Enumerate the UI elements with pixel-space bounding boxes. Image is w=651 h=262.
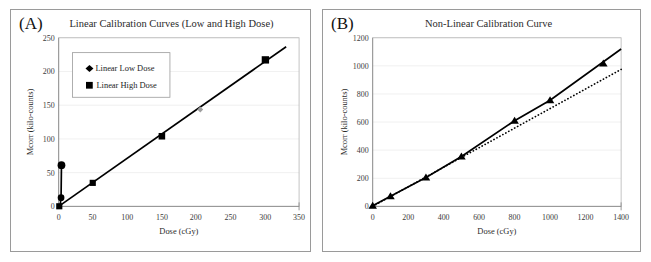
y-tick-label: 600	[357, 118, 369, 127]
y-tick-label: 100	[43, 135, 55, 144]
data-marker-square	[262, 56, 269, 63]
data-marker-diamond	[58, 161, 66, 169]
y-tick-label: 150	[43, 101, 55, 110]
panel-b-plot: 0 200 400 600 800 1000 1200 0 200 400 60…	[323, 10, 640, 251]
x-tick-label: 250	[225, 213, 237, 222]
panel-b-x-axis-title: Dose (cGy)	[477, 226, 516, 236]
faint-data-marker	[197, 106, 203, 112]
x-tick-label: 0	[371, 213, 375, 222]
x-tick-label: 400	[438, 213, 450, 222]
x-tick-label: 300	[259, 213, 271, 222]
x-tick-label: 350	[293, 213, 305, 222]
legend-box	[73, 53, 170, 98]
y-tick-label: 0	[365, 202, 369, 211]
data-marker-triangle	[510, 117, 519, 124]
panel-b-y-axis-title: Mcorr (kilo-counts)	[339, 89, 349, 156]
y-tick-label: 1000	[353, 62, 369, 71]
x-tick-label: 1000	[542, 213, 558, 222]
y-tick-label: 0	[51, 202, 55, 211]
panel-a-legend: Linear Low Dose Linear High Dose	[73, 53, 170, 98]
panel-b-x-ticks: 0 200 400 600 800 1000 1200 1400	[371, 213, 629, 222]
data-marker-square	[159, 133, 166, 140]
x-tick-label: 200	[402, 213, 414, 222]
x-tick-label: 50	[88, 213, 96, 222]
y-tick-label: 800	[357, 90, 369, 99]
legend-label-low-dose: Linear Low Dose	[95, 63, 154, 73]
panel-a-plot: 0 50 100 150 200 250 0 50 100 150 200 25…	[11, 10, 310, 251]
data-marker-square	[90, 180, 96, 186]
panel-a-x-ticks: 0 50 100 150 200 250 300 350	[57, 213, 305, 222]
y-tick-label: 50	[47, 169, 55, 178]
x-tick-label: 800	[509, 213, 521, 222]
panel-b-data-markers	[368, 60, 607, 209]
legend-label-high-dose: Linear High Dose	[96, 80, 157, 90]
y-tick-label: 1200	[353, 34, 369, 43]
y-tick-label: 250	[43, 34, 55, 43]
x-tick-label: 600	[473, 213, 485, 222]
x-tick-label: 1400	[613, 213, 629, 222]
legend-square-icon	[86, 82, 93, 89]
x-tick-label: 0	[57, 213, 61, 222]
y-tick-label: 200	[43, 67, 55, 76]
x-tick-label: 100	[121, 213, 133, 222]
panel-a-y-axis-title: Mcorr (kilo-counts)	[25, 89, 35, 156]
panel-b-y-ticks: 0 200 400 600 800 1000 1200	[353, 34, 369, 212]
x-tick-label: 200	[190, 213, 202, 222]
panel-a-y-ticks: 0 50 100 150 200 250	[43, 34, 55, 212]
data-marker-square	[56, 203, 62, 209]
panel-b-gridlines	[373, 38, 621, 207]
y-tick-label: 400	[357, 146, 369, 155]
panel-a-x-axis-title: Dose (cGy)	[159, 226, 198, 236]
y-tick-label: 200	[357, 174, 369, 183]
x-tick-label: 150	[156, 213, 168, 222]
data-marker-diamond	[58, 194, 65, 201]
figure-container: (A) Linear Calibration Curves (Low and H…	[0, 0, 651, 262]
panel-b: (B) Non-Linear Calibration Curve 0 200 4…	[322, 9, 641, 252]
panel-b-calibration-line	[373, 49, 621, 206]
x-tick-label: 1200	[578, 213, 594, 222]
panel-a: (A) Linear Calibration Curves (Low and H…	[10, 9, 311, 252]
